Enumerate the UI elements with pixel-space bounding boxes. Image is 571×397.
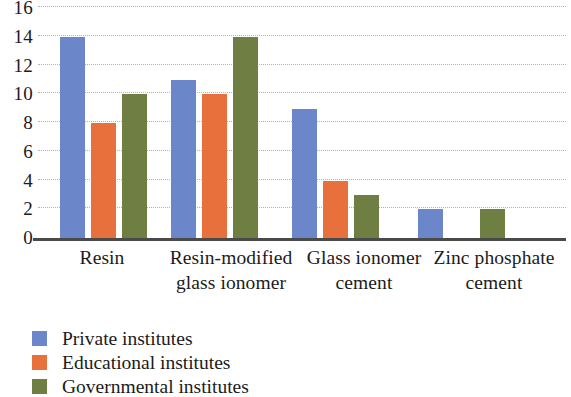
bar (418, 209, 443, 238)
bar (91, 123, 116, 238)
plot-area (38, 8, 566, 238)
y-axis-tick-label: 16 (0, 0, 33, 17)
category-label-line: Zinc phosphate (418, 245, 570, 270)
bar (202, 94, 227, 238)
legend-item-label: Governmental institutes (62, 376, 249, 397)
bar (60, 37, 85, 238)
category-label: Resin (38, 245, 166, 270)
legend-color-swatch (32, 331, 47, 346)
y-axis-tick-label: 4 (0, 171, 33, 190)
bar (354, 195, 379, 238)
x-axis-line (33, 238, 566, 241)
legend-item[interactable]: Private institutes (32, 327, 362, 350)
chart-legend: Private institutesEducational institutes… (32, 327, 362, 397)
legend-color-swatch (32, 355, 47, 370)
category-label: Zinc phosphatecement (418, 245, 570, 295)
bar-group (60, 8, 150, 238)
y-axis-tick-label: 14 (0, 27, 33, 46)
bar (292, 109, 317, 238)
y-axis-tick-label: 10 (0, 84, 33, 103)
y-axis-tick-labels: 1614121086420 (0, 8, 33, 238)
bar (171, 80, 196, 238)
y-axis-tick-label: 6 (0, 142, 33, 161)
x-axis-category-labels: ResinResin-modifiedglass ionomerGlass io… (0, 245, 571, 305)
bar-group (171, 8, 261, 238)
legend-item-label: Private institutes (62, 328, 193, 350)
legend-item-label: Educational institutes (62, 352, 230, 374)
y-axis-tick-label: 8 (0, 113, 33, 132)
bar-group (292, 8, 382, 238)
y-axis-tick-label: 2 (0, 199, 33, 218)
bar-group (418, 8, 508, 238)
bar (323, 181, 348, 239)
legend-color-swatch (32, 379, 47, 394)
legend-item[interactable]: Governmental institutes (32, 375, 362, 397)
category-label-line: cement (418, 270, 570, 295)
bar-chart-figure: 1614121086420 ResinResin-modifiedglass i… (0, 0, 571, 397)
bar (122, 94, 147, 238)
category-label-line: Resin (38, 245, 166, 270)
legend-item[interactable]: Educational institutes (32, 351, 362, 374)
y-axis-tick-label: 12 (0, 56, 33, 75)
bar (233, 37, 258, 238)
bar (480, 209, 505, 238)
